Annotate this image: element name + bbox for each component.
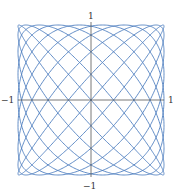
x-axis-max-label: 1 [168,95,174,105]
plot-area [18,22,164,177]
y-axis-max-label: 1 [88,11,94,21]
y-axis-min-label: −1 [83,181,96,191]
x-axis-min-label: −1 [1,95,14,105]
lissajous-plot: 1 −1 −1 1 [0,0,176,192]
